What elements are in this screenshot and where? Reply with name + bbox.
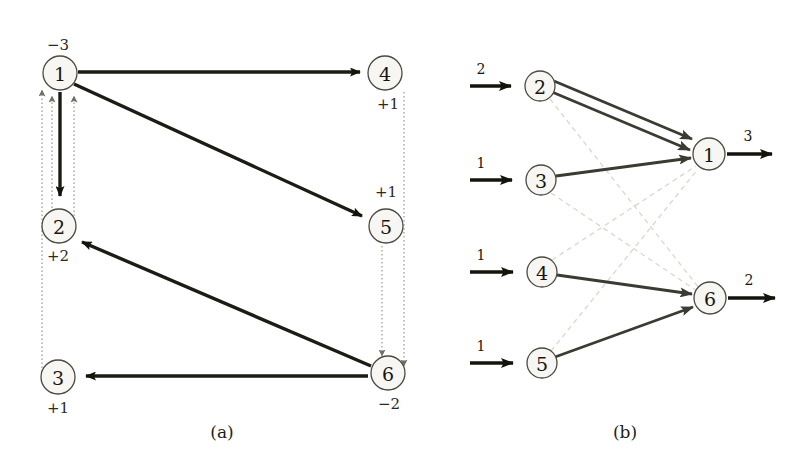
node-a-5-supply: +1 [375,183,397,201]
output-label-node-6: 2 [745,272,754,288]
node-a-3-label: 3 [52,367,64,389]
node-a-2-supply: +2 [47,247,69,265]
node-a-3[interactable]: 3 +1 [41,360,75,417]
solid-edge-6-to-2 [82,242,371,366]
node-a-6-supply: −2 [378,395,400,413]
node-a-1[interactable]: 1 −3 [43,36,77,90]
solid-edge-1-to-5 [74,84,362,216]
panel-a-caption: (a) [210,422,233,442]
node-a-6[interactable]: 6 −2 [371,356,405,413]
node-b-1[interactable]: 1 [693,138,725,170]
panel-b-input-arrows: 2 1 1 1 [470,61,513,363]
node-b-1-label: 1 [703,144,715,166]
node-a-5-label: 5 [380,216,392,238]
network-diagram-svg: 1 −3 4 +1 2 +2 5 +1 [0,0,807,468]
dashed-edge-4-to-1 [552,166,696,260]
node-b-2-label: 2 [534,76,546,98]
node-b-5[interactable]: 5 [527,348,557,378]
solid-edge-b-2-to-1-lower [552,92,690,150]
node-a-1-supply: −3 [47,36,69,54]
node-b-5-label: 5 [536,353,548,375]
node-a-5[interactable]: 5 +1 [369,183,403,243]
node-b-6-label: 6 [704,288,716,310]
panel-a-dotted-edges [42,90,404,380]
input-label-node-2: 2 [477,61,486,77]
input-label-node-4: 1 [477,247,486,263]
node-b-3[interactable]: 3 [526,165,556,195]
node-b-2[interactable]: 2 [525,71,555,101]
solid-edge-b-4-to-6 [557,275,692,294]
node-a-4-supply: +1 [377,95,399,113]
solid-edge-b-3-to-1 [556,158,691,176]
dashed-edge-5-to-1 [551,169,698,351]
node-a-2[interactable]: 2 +2 [42,209,76,265]
node-b-3-label: 3 [535,170,547,192]
solid-edge-b-5-to-6 [555,307,693,357]
panel-a-group: 1 −3 4 +1 2 +2 5 +1 [41,36,405,442]
panel-b-solid-edges [552,81,693,357]
input-label-node-3: 1 [477,155,486,171]
node-a-2-label: 2 [53,216,65,238]
figure-canvas: 1 −3 4 +1 2 +2 5 +1 [0,0,807,468]
panel-a-solid-edges [60,72,371,376]
node-a-3-supply: +1 [47,399,69,417]
panel-b-group: 2 1 1 1 3 2 2 [470,61,775,442]
node-b-4[interactable]: 4 [527,257,557,287]
node-b-4-label: 4 [536,262,548,284]
node-b-6[interactable]: 6 [694,282,726,314]
node-a-6-label: 6 [382,363,394,385]
panel-b-output-arrows: 3 2 [727,128,775,298]
panel-b-caption: (b) [613,422,637,442]
input-label-node-5: 1 [477,338,486,354]
node-a-1-label: 1 [54,63,66,85]
output-label-node-1: 3 [744,128,753,144]
node-a-4-label: 4 [379,63,391,85]
node-a-4[interactable]: 4 +1 [368,56,402,113]
